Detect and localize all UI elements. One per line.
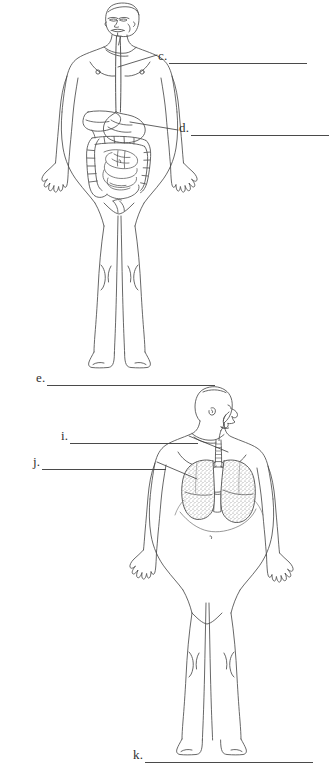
answer-blank-e[interactable] xyxy=(47,374,215,386)
answer-blank-c[interactable] xyxy=(169,52,307,64)
digestive-organs xyxy=(83,36,151,213)
left-lung-organ xyxy=(182,460,215,519)
callout-letter-j: j. xyxy=(33,454,42,470)
respiratory-organs xyxy=(175,440,263,532)
callout-k[interactable]: k. xyxy=(133,747,313,763)
callout-j[interactable]: j. xyxy=(33,454,166,470)
callout-d[interactable]: d. xyxy=(179,120,329,136)
stomach-organ xyxy=(103,112,145,143)
legs-outline-lower xyxy=(177,603,247,755)
head-profile-outline xyxy=(195,387,237,441)
large-intestine-organ xyxy=(87,136,151,212)
callout-i[interactable]: i. xyxy=(61,428,198,444)
callout-letter-i: i. xyxy=(61,428,70,444)
callout-letter-c: c. xyxy=(158,48,169,64)
esophagus-organ xyxy=(116,36,121,112)
right-lung-organ xyxy=(221,460,256,523)
legs-outline xyxy=(89,216,151,368)
small-intestine-organ xyxy=(103,150,138,190)
answer-blank-i[interactable] xyxy=(70,432,198,444)
torso-outline-lower xyxy=(130,421,293,624)
leader-lines-upper xyxy=(118,55,178,130)
answer-blank-k[interactable] xyxy=(145,751,313,763)
liver-organ xyxy=(83,111,121,138)
leader-line-c xyxy=(118,55,157,67)
trachea-organ xyxy=(202,440,235,474)
callout-c[interactable]: c. xyxy=(158,48,307,64)
callout-letter-d: d. xyxy=(179,120,191,136)
callout-e[interactable]: e. xyxy=(36,370,215,386)
callout-letter-e: e. xyxy=(36,370,47,386)
callout-letter-k: k. xyxy=(133,747,145,763)
answer-blank-j[interactable] xyxy=(42,458,166,470)
answer-blank-d[interactable] xyxy=(191,124,329,136)
leader-line-d xyxy=(130,122,178,130)
head-outline xyxy=(105,3,139,45)
